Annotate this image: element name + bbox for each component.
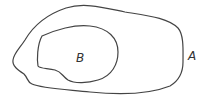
set-b-label: B	[76, 51, 84, 65]
set-a-label: A	[188, 49, 196, 63]
set-diagram	[0, 0, 203, 99]
